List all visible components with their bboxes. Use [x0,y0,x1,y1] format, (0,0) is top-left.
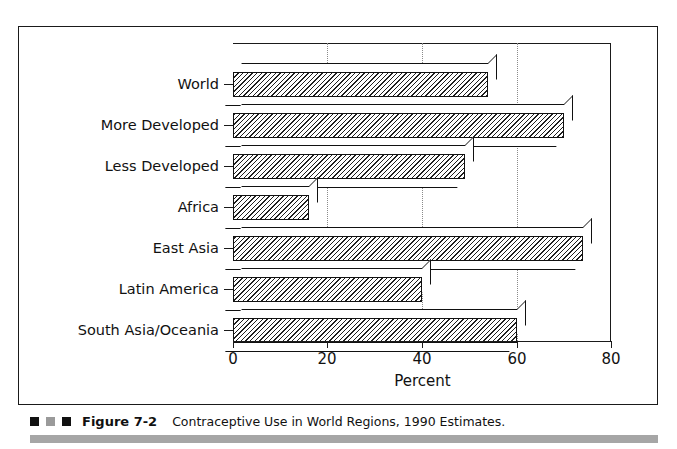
x-axis-title: Percent [233,372,612,390]
category-label-africa: Africa [178,199,219,215]
figure-frame: World More Developed Less Developed Afri… [18,26,658,405]
category-label-less-developed: Less Developed [105,158,219,174]
category-label-latin-america: Latin America [119,281,219,297]
x-tick-label-80: 80 [601,350,620,368]
category-tick-less-developed [224,166,233,167]
category-tick-east-asia [224,248,233,249]
gridline-60 [517,43,518,341]
category-label-more-developed: More Developed [101,117,219,133]
bar-front-face [233,318,517,343]
bar-latin-america[interactable] [233,277,422,302]
category-tick-world [224,84,233,85]
bar-front-face [233,72,488,97]
category-tick-south-asia-oceania [224,330,233,331]
caption-marker-square-3 [62,417,71,426]
x-tick-60 [517,341,518,348]
x-tick-0 [233,341,234,348]
bar-africa[interactable] [233,195,309,220]
category-tick-more-developed [224,125,233,126]
figure-caption-text: Contraceptive Use in World Regions, 1990… [172,414,505,429]
bottom-rule [30,435,658,443]
x-tick-label-60: 60 [507,350,526,368]
figure-caption: Figure 7-2 Contraceptive Use in World Re… [30,414,505,429]
category-label-world: World [177,76,219,92]
category-label-south-asia-oceania: South Asia/Oceania [78,322,219,338]
x-tick-20 [327,341,328,348]
x-tick-label-20: 20 [317,350,336,368]
x-tick-label-40: 40 [412,350,431,368]
caption-marker-square-1 [30,417,39,426]
x-tick-label-0: 0 [228,350,238,368]
bar-less-developed[interactable] [233,154,465,179]
figure-number: Figure 7-2 [82,414,157,429]
bar-more-developed[interactable] [233,113,564,138]
bar-world[interactable] [233,72,488,97]
bar-front-face [233,154,465,179]
bar-front-face [233,277,422,302]
bar-front-face [233,236,583,261]
bar-front-face [233,195,309,220]
category-tick-latin-america [224,289,233,290]
category-tick-africa [224,207,233,208]
caption-marker-square-2 [46,417,55,426]
bar-front-face [233,113,564,138]
x-tick-80 [611,341,612,348]
bar-east-asia[interactable] [233,236,583,261]
bar-base-face [225,343,517,352]
chart-plot-area: World More Developed Less Developed Afri… [19,27,659,406]
category-label-east-asia: East Asia [153,240,219,256]
bar-south-asia-oceania[interactable] [233,318,517,343]
x-tick-40 [422,341,423,348]
